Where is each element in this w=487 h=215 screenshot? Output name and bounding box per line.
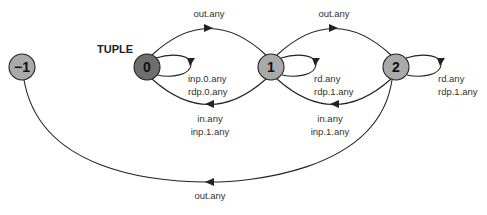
self-loop-2: rd.any rdp.1.any <box>406 55 478 97</box>
edge-0-to-1: out.any <box>152 8 266 55</box>
edge-label: out.any <box>194 190 225 201</box>
edge-label-line-1: in.any <box>317 113 343 124</box>
edge-label-line-2: rdp.1.any <box>314 86 354 97</box>
arrow-left-icon <box>205 100 214 108</box>
diagram-title: TUPLE <box>97 43 133 55</box>
edge-1-to-2: out.any <box>277 8 391 55</box>
arrow-left-icon <box>205 178 214 186</box>
node-label: −1 <box>14 59 30 75</box>
edge-label-line-1: rd.any <box>314 73 341 84</box>
edge-label-line-2: inp.1.any <box>311 126 350 137</box>
node-minus1: −1 <box>9 54 35 80</box>
edge-label-line-2: rdp.0.any <box>188 86 228 97</box>
edge-label: out.any <box>193 8 224 19</box>
edge-label-line-2: inp.1.any <box>191 126 230 137</box>
node-label: 0 <box>143 59 151 75</box>
node-label: 1 <box>267 59 275 75</box>
edge-2-to-minus1: out.any <box>24 80 392 201</box>
node-2: 2 <box>383 54 409 80</box>
edge-label-line-1: in.any <box>197 113 223 124</box>
arrow-left-icon <box>330 100 339 108</box>
edge-label-line-1: inp.0.any <box>188 73 227 84</box>
node-0: 0 <box>134 54 160 80</box>
node-1: 1 <box>258 54 284 80</box>
arrow-right-icon <box>204 24 213 32</box>
edge-label: out.any <box>318 8 349 19</box>
node-label: 2 <box>392 59 400 75</box>
state-diagram: out.any out.any in.any inp.1.any in.any … <box>0 0 487 215</box>
arrow-right-icon <box>329 24 338 32</box>
edge-label-line-1: rd.any <box>438 73 465 84</box>
edge-label-line-2: rdp.1.any <box>438 86 478 97</box>
